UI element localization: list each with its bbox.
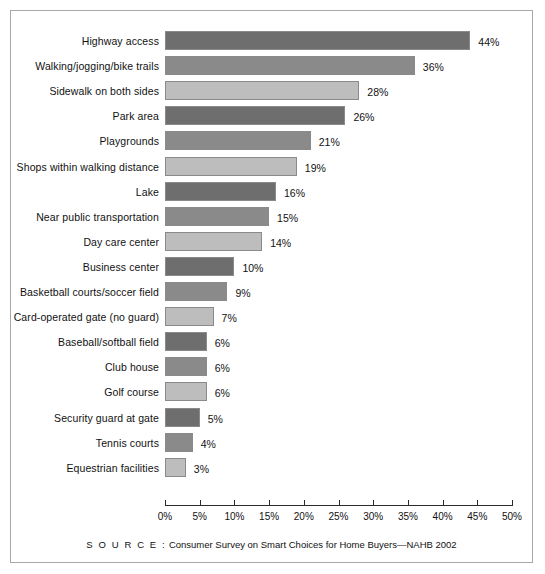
bar-row: Business center10% [11, 255, 532, 279]
bar-value-label: 14% [270, 230, 291, 254]
bar-value-label: 4% [201, 431, 216, 455]
bar-rect [165, 307, 214, 326]
bar-row: Golf course6% [11, 380, 532, 404]
bar-row: Card-operated gate (no guard)7% [11, 305, 532, 329]
bar-category-label: Shops within walking distance [11, 155, 159, 179]
bar-row: Basketball courts/soccer field9% [11, 280, 532, 304]
bar-rect [165, 182, 276, 201]
bar-row: Sidewalk on both sides28% [11, 79, 532, 103]
bar-chart-plot-area: Highway access44%Walking/jogging/bike tr… [11, 11, 532, 511]
bar-row: Playgrounds21% [11, 129, 532, 153]
bar-rect [165, 382, 207, 401]
bar-value-label: 3% [194, 456, 209, 480]
bar-rect [165, 56, 415, 75]
bar-category-label: Day care center [11, 230, 159, 254]
x-axis-tick [408, 500, 409, 506]
bar-rect [165, 131, 311, 150]
x-axis-tick [443, 500, 444, 506]
x-axis-tick [512, 500, 513, 506]
bar-value-label: 19% [305, 155, 326, 179]
bar-rect [165, 157, 297, 176]
bar-value-label: 15% [277, 205, 298, 229]
bar-value-label: 28% [367, 79, 388, 103]
bar-rect [165, 257, 234, 276]
bar-row: Highway access44% [11, 29, 532, 53]
bar-row: Baseball/softball field6% [11, 330, 532, 354]
x-axis-tick [304, 500, 305, 506]
x-axis-tick [339, 500, 340, 506]
bar-category-label: Walking/jogging/bike trails [11, 54, 159, 78]
x-axis-tick-label: 50% [492, 511, 532, 522]
bar-row: Security guard at gate5% [11, 406, 532, 430]
bar-row: Tennis courts4% [11, 431, 532, 455]
bar-category-label: Lake [11, 180, 159, 204]
bar-category-label: Golf course [11, 380, 159, 404]
bar-category-label: Basketball courts/soccer field [11, 280, 159, 304]
bar-category-label: Park area [11, 104, 159, 128]
bar-rect [165, 408, 200, 427]
bar-row: Lake16% [11, 180, 532, 204]
chart-figure-frame: Highway access44%Walking/jogging/bike tr… [10, 10, 533, 563]
bar-category-label: Equestrian facilities [11, 456, 159, 480]
source-note: S O U R C E : Consumer Survey on Smart C… [11, 539, 532, 550]
bar-row: Near public transportation15% [11, 205, 532, 229]
bar-category-label: Sidewalk on both sides [11, 79, 159, 103]
bar-category-label: Card-operated gate (no guard) [11, 305, 159, 329]
bar-row: Club house6% [11, 355, 532, 379]
bar-category-label: Playgrounds [11, 129, 159, 153]
bar-rect [165, 106, 345, 125]
x-axis-tick [373, 500, 374, 506]
bar-category-label: Highway access [11, 29, 159, 53]
bar-rect [165, 282, 227, 301]
source-text-label: Consumer Survey on Smart Choices for Hom… [166, 539, 456, 550]
bar-row: Park area26% [11, 104, 532, 128]
x-axis-tick [234, 500, 235, 506]
bar-category-label: Security guard at gate [11, 406, 159, 430]
bar-value-label: 21% [319, 129, 340, 153]
bar-rect [165, 332, 207, 351]
bar-category-label: Baseball/softball field [11, 330, 159, 354]
x-axis-tick [269, 500, 270, 506]
bar-value-label: 44% [478, 29, 499, 53]
bar-category-label: Near public transportation [11, 205, 159, 229]
bar-value-label: 6% [215, 380, 230, 404]
bar-rect [165, 232, 262, 251]
bar-row: Walking/jogging/bike trails36% [11, 54, 532, 78]
bar-value-label: 26% [353, 104, 374, 128]
bar-row: Equestrian facilities3% [11, 456, 532, 480]
bar-row: Day care center14% [11, 230, 532, 254]
bar-rect [165, 357, 207, 376]
x-axis-tick [200, 500, 201, 506]
bar-category-label: Business center [11, 255, 159, 279]
source-prefix-label: S O U R C E : [86, 539, 166, 550]
bar-value-label: 10% [242, 255, 263, 279]
bar-value-label: 16% [284, 180, 305, 204]
bar-rect [165, 433, 193, 452]
bar-value-label: 9% [235, 280, 250, 304]
bar-value-label: 7% [222, 305, 237, 329]
bar-rect [165, 81, 359, 100]
bar-value-label: 36% [423, 54, 444, 78]
x-axis-tick [477, 500, 478, 506]
bar-value-label: 5% [208, 406, 223, 430]
x-axis-tick [165, 500, 166, 506]
bar-rect [165, 458, 186, 477]
bar-rect [165, 31, 470, 50]
bar-value-label: 6% [215, 330, 230, 354]
bar-value-label: 6% [215, 355, 230, 379]
bar-rect [165, 207, 269, 226]
bar-row: Shops within walking distance19% [11, 155, 532, 179]
bar-category-label: Tennis courts [11, 431, 159, 455]
bar-category-label: Club house [11, 355, 159, 379]
